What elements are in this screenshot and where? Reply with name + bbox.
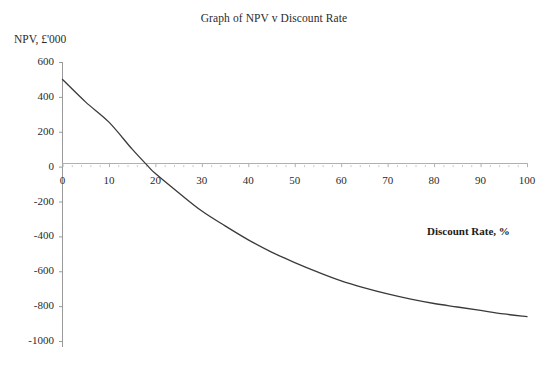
y-tick-label: -400 [8,230,54,241]
x-tick-label: 20 [135,175,175,186]
y-tick-label: -600 [8,265,54,276]
x-tick-label: 100 [507,175,547,186]
y-tick-label: -200 [8,196,54,207]
npv-curve [63,79,528,316]
x-tick-label: 70 [368,175,408,186]
y-tick-label: -800 [8,300,54,311]
x-tick-label: 40 [228,175,268,186]
x-tick-label: 0 [43,175,83,186]
x-tick-label: 60 [321,175,361,186]
y-tick-label: 600 [8,56,54,67]
x-tick-label: 30 [182,175,222,186]
x-tick-label: 80 [414,175,454,186]
y-tick-label: 400 [8,91,54,102]
x-tick-label: 90 [461,175,501,186]
y-tick-label: 200 [8,126,54,137]
chart-figure: Graph of NPV v Discount Rate NPV, £'000 … [0,0,548,368]
x-tick-label: 10 [89,175,129,186]
x-tick-label: 50 [275,175,315,186]
y-tick-label: 0 [8,161,54,172]
y-tick-label: -1000 [8,335,54,346]
